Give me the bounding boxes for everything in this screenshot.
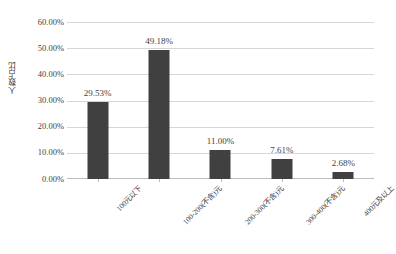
x-axis-category-label: 100元以下 <box>114 184 143 213</box>
x-axis-category-label: 400元及以上 <box>362 184 396 218</box>
x-axis-category-label: 200-300(不含)元 <box>242 184 284 226</box>
x-axis-category-label: 300-400(不含)元 <box>304 184 346 226</box>
x-axis-category-label: 100-200(不含)元 <box>181 184 223 226</box>
